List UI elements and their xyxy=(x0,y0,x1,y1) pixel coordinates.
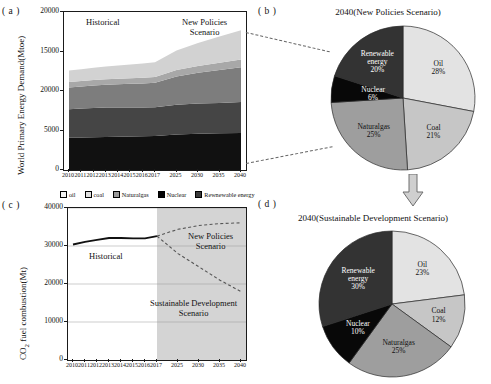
panel-a-ytick xyxy=(60,130,63,131)
legend-swatch-naturalgas xyxy=(113,191,120,198)
panel-c-ytick-label: 40000 xyxy=(27,202,63,211)
panel-c-xtick-label: 2025 xyxy=(166,362,188,368)
panel-b-pie-chart: Oil28%Coal21%Naturalgas25%Nuclear6%Renew… xyxy=(329,24,477,172)
panel-a-ytick-label: 20000 xyxy=(25,6,59,15)
panel-c-ytick xyxy=(64,245,67,246)
pie-value-oil: 23% xyxy=(415,269,429,277)
pie-value-naturalgas: 25% xyxy=(382,347,415,355)
panel-a-ytick-label: 5000 xyxy=(25,125,59,134)
panel-c-ytick-label: 0 xyxy=(27,354,63,363)
panel-c-ytick xyxy=(64,321,67,322)
legend-label-coal: coal xyxy=(94,191,104,198)
panel-a-label: ( a ) xyxy=(2,6,20,16)
line-historical xyxy=(73,236,157,244)
pie-label-renewable-energy: Renewableenergy20% xyxy=(361,50,394,75)
panel-a-ytick xyxy=(60,11,63,12)
pie-label-renewable-energy: Renewableenergy30% xyxy=(342,267,375,292)
panel-c-ytick-label: 30000 xyxy=(27,240,63,249)
pie-label-coal: Coal21% xyxy=(426,124,440,141)
pie-label-nuclear: Nuclear10% xyxy=(346,320,370,337)
panel-c-xtick-label: 2030 xyxy=(187,362,209,368)
panel-d-pie-chart: Oil23%Coal12%Naturalgas25%Nuclear10%Rene… xyxy=(317,229,467,379)
panel-c-ytick-label: 10000 xyxy=(27,316,63,325)
panel-a-ytick-label: 20000 xyxy=(25,85,59,94)
pie-value-nuclear: 6% xyxy=(361,94,385,102)
panel-b-connector-upper xyxy=(246,32,330,52)
panel-a-new-policies-annotation: New PoliciesScenario xyxy=(182,18,227,37)
pie-label-oil: Oil28% xyxy=(431,60,445,77)
legend-item-nuclear: Nuclear xyxy=(158,191,187,198)
legend-item-coal: coal xyxy=(85,191,104,198)
legend-label-nuclear: Nuclear xyxy=(167,191,187,198)
panel-a-xtick-label: 2030 xyxy=(186,172,208,178)
panel-a-historical-annotation: Historical xyxy=(86,18,120,28)
panel-c-ytick xyxy=(64,359,67,360)
pie-label-coal: Coal12% xyxy=(431,307,445,324)
panel-c-ytick xyxy=(64,207,67,208)
legend-swatch-nuclear xyxy=(158,191,165,198)
panel-c-label: ( c ) xyxy=(2,200,20,210)
panel-a-y-axis-label: World Primary Energy Demand(Mtoe) xyxy=(16,36,26,175)
panel-b-connector-lower xyxy=(246,146,333,164)
pie-label-oil: Oil23% xyxy=(415,261,429,278)
panel-d-label: ( d ) xyxy=(258,199,276,209)
pie-label-naturalgas: Naturalgas25% xyxy=(382,339,415,356)
legend-label-oil: oil xyxy=(69,191,76,198)
panel-a-xtick-label: 2025 xyxy=(165,172,187,178)
panel-a-ytick-label: 15000 xyxy=(25,46,59,55)
panel-c-new-policies-annotation: New PoliciesScenario xyxy=(188,232,233,251)
pie-value-coal: 21% xyxy=(426,132,440,140)
legend-item-naturalgas: Naturalgas xyxy=(113,191,149,198)
panel-a-ytick-label: 0 xyxy=(25,164,59,173)
area-band-oil xyxy=(69,133,241,170)
panel-c-xtick-label: 2040 xyxy=(229,362,251,368)
legend-swatch-oil xyxy=(60,191,67,198)
panel-c-historical-annotation: Historical xyxy=(89,252,123,262)
panel-a-xtick-label: 2035 xyxy=(208,172,230,178)
pie-value-renewable-energy: 20% xyxy=(361,66,394,74)
legend-label-naturalgas: Naturalgas xyxy=(122,191,149,198)
pie-label-nuclear: Nuclear6% xyxy=(361,86,385,103)
legend-item-renewable: Rewnewable energy xyxy=(195,191,254,198)
panel-b-label: ( b ) xyxy=(258,6,276,16)
scenario-transition-arrow xyxy=(402,174,424,208)
panel-a-xtick-label: 2017 xyxy=(143,172,165,178)
pie-value-renewable-energy: 30% xyxy=(342,283,375,291)
panel-a-ytick xyxy=(60,169,63,170)
pie-value-nuclear: 10% xyxy=(346,328,370,336)
panel-d-title: 2040(Sustainable Development Scenario) xyxy=(258,213,488,223)
panel-b-title: 2040(New Policies Scenario) xyxy=(288,7,488,17)
pie-value-coal: 12% xyxy=(431,316,445,324)
pie-value-oil: 28% xyxy=(431,68,445,76)
legend-swatch-coal xyxy=(85,191,92,198)
panel-c-ytick xyxy=(64,283,67,284)
legend-item-oil: oil xyxy=(60,191,76,198)
legend-label-renewable: Rewnewable energy xyxy=(204,191,254,198)
series-legend: oilcoalNaturalgasNuclearRewnewable energ… xyxy=(60,191,255,198)
panel-c-xtick-label: 2035 xyxy=(208,362,230,368)
panel-a-xtick-label: 2040 xyxy=(229,172,251,178)
panel-c-ytick-label: 20000 xyxy=(27,278,63,287)
panel-c-xtick-label: 2017 xyxy=(145,362,167,368)
pie-label-naturalgas: Naturalgas25% xyxy=(357,123,390,140)
pie-value-naturalgas: 25% xyxy=(357,131,390,139)
panel-a-ytick xyxy=(60,51,63,52)
panel-c-sustainable-annotation: Sustainable DevelopmentScenario xyxy=(150,299,237,318)
legend-swatch-renewable xyxy=(195,191,202,198)
panel-a-ytick xyxy=(60,90,63,91)
